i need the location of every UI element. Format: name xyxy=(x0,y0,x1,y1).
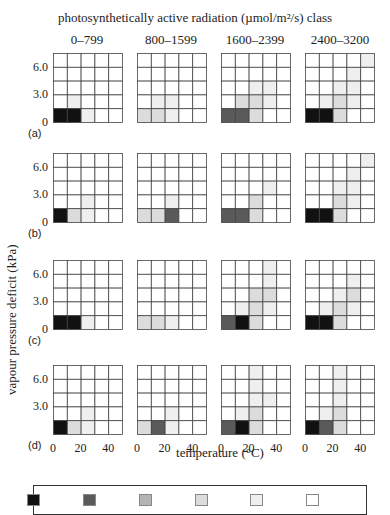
heatmap-cell xyxy=(67,154,81,168)
heatmap-cell xyxy=(235,302,249,316)
heatmap-cell xyxy=(306,209,320,223)
heatmap-cell xyxy=(179,67,193,81)
heatmap-cell xyxy=(95,67,109,81)
heatmap-cell xyxy=(179,95,193,109)
heatmap-cell xyxy=(306,366,320,380)
x-tick-label: 0 xyxy=(209,441,233,456)
heatmap-cell xyxy=(95,95,109,109)
heatmap-cell xyxy=(347,302,361,316)
heatmap-cell xyxy=(81,261,95,275)
heatmap-cell xyxy=(67,261,81,275)
heatmap-cell xyxy=(347,421,361,435)
heatmap-cell xyxy=(193,195,207,209)
heatmap-cell xyxy=(333,167,347,181)
heatmap-cell xyxy=(151,316,165,330)
heatmap-cell xyxy=(95,154,109,168)
heatmap-cell xyxy=(222,181,236,195)
heatmap-cell xyxy=(81,54,95,68)
heatmap-cell xyxy=(54,209,68,223)
heatmap-cell xyxy=(151,261,165,275)
heatmap-cell xyxy=(319,209,333,223)
heatmap-cell xyxy=(319,379,333,393)
panel-0-3 xyxy=(305,53,375,123)
legend-swatch xyxy=(27,494,40,506)
heatmap-cell xyxy=(319,274,333,288)
heatmap-cell xyxy=(277,261,291,275)
panel-3-0 xyxy=(53,365,123,435)
heatmap-cell xyxy=(95,274,109,288)
heatmap-cell xyxy=(263,67,277,81)
heatmap-cell xyxy=(193,67,207,81)
heatmap-cell xyxy=(54,109,68,123)
heatmap-cell xyxy=(347,181,361,195)
heatmap-cell xyxy=(67,81,81,95)
heatmap-cell xyxy=(361,261,375,275)
heatmap-cell xyxy=(347,154,361,168)
heatmap-cell xyxy=(193,274,207,288)
heatmap-cell xyxy=(81,379,95,393)
heatmap-cell xyxy=(95,195,109,209)
heatmap-cell xyxy=(347,407,361,421)
heatmap-cell xyxy=(319,421,333,435)
heatmap-cell xyxy=(109,209,123,223)
chart-title: photosynthetically active radiation (µmo… xyxy=(0,10,390,26)
panel-2-1 xyxy=(137,260,207,330)
heatmap-cell xyxy=(333,154,347,168)
heatmap-cell xyxy=(138,421,152,435)
heatmap-cell xyxy=(249,302,263,316)
heatmap-cell xyxy=(361,109,375,123)
heatmap-cell xyxy=(347,95,361,109)
heatmap-cell xyxy=(81,421,95,435)
heatmap-cell xyxy=(319,54,333,68)
heatmap-cell xyxy=(138,379,152,393)
panel-1-3 xyxy=(305,153,375,223)
heatmap-cell xyxy=(347,195,361,209)
heatmap-cell xyxy=(138,407,152,421)
heatmap-cell xyxy=(193,154,207,168)
heatmap-cell xyxy=(306,393,320,407)
heatmap-cell xyxy=(179,407,193,421)
heatmap-cell xyxy=(193,393,207,407)
heatmap-cell xyxy=(361,54,375,68)
heatmap-cell xyxy=(165,261,179,275)
heatmap-cell xyxy=(361,393,375,407)
heatmap-cell xyxy=(235,209,249,223)
heatmap-cell xyxy=(95,261,109,275)
heatmap-cell xyxy=(263,274,277,288)
heatmap-cell xyxy=(151,181,165,195)
y-tick-label: 0 xyxy=(18,215,48,230)
heatmap-cell xyxy=(277,316,291,330)
x-tick-label: 0 xyxy=(293,441,317,456)
panel-1-0 xyxy=(53,153,123,223)
heatmap-cell xyxy=(263,379,277,393)
heatmap-cell xyxy=(95,302,109,316)
heatmap-cell xyxy=(235,195,249,209)
heatmap-cell xyxy=(306,261,320,275)
heatmap-cell xyxy=(81,316,95,330)
heatmap-cell xyxy=(361,154,375,168)
heatmap-cell xyxy=(263,154,277,168)
heatmap-cell xyxy=(333,95,347,109)
heatmap-cell xyxy=(95,407,109,421)
heatmap-cell xyxy=(138,288,152,302)
y-tick-label: 0 xyxy=(18,115,48,130)
heatmap-cell xyxy=(263,109,277,123)
heatmap-cell xyxy=(306,379,320,393)
heatmap-cell xyxy=(361,195,375,209)
heatmap-cell xyxy=(361,167,375,181)
heatmap-cell xyxy=(306,421,320,435)
heatmap-cell xyxy=(109,288,123,302)
heatmap-cell xyxy=(81,195,95,209)
heatmap-cell xyxy=(165,81,179,95)
legend-swatch xyxy=(195,494,208,506)
heatmap-cell xyxy=(249,421,263,435)
heatmap-cell xyxy=(138,67,152,81)
heatmap-cell xyxy=(67,302,81,316)
heatmap-cell xyxy=(249,366,263,380)
x-tick-label: 40 xyxy=(348,441,372,456)
heatmap-cell xyxy=(54,167,68,181)
heatmap-cell xyxy=(109,421,123,435)
heatmap-cell xyxy=(67,181,81,195)
heatmap-cell xyxy=(193,407,207,421)
heatmap-cell xyxy=(67,209,81,223)
